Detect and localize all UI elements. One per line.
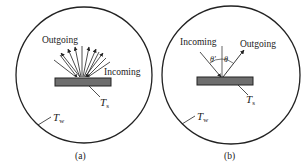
incoming-label-a: Incoming <box>104 67 141 77</box>
figure: Outgoing Incoming Ts Tw (a) Incoming Out… <box>0 0 307 168</box>
angle-out-label-b: θ <box>224 55 228 64</box>
outgoing-label-b: Outgoing <box>240 39 276 49</box>
panel-a: Outgoing Incoming Ts Tw (a) <box>16 7 152 162</box>
surface-leader-a <box>89 86 100 97</box>
wall-leader-b <box>182 116 195 124</box>
incoming-label-b: Incoming <box>180 37 217 47</box>
panel-b: Incoming Outgoing θ' θ Ts Tw (b) <box>162 6 300 162</box>
wall-temp-a: Tw <box>53 111 65 125</box>
surface-temp-b: Ts <box>246 93 255 107</box>
caption-b: (b) <box>224 151 235 162</box>
wall-leader-a <box>38 117 51 125</box>
wall-temp-b: Tw <box>197 110 209 124</box>
surface-temp-a: Ts <box>100 96 109 110</box>
outgoing-rays-a <box>54 46 110 77</box>
caption-a: (a) <box>75 151 86 162</box>
surface-a <box>55 78 111 86</box>
surface-b <box>197 77 253 85</box>
outgoing-label-a: Outgoing <box>42 35 78 45</box>
angle-in-label-b: θ' <box>210 55 216 64</box>
